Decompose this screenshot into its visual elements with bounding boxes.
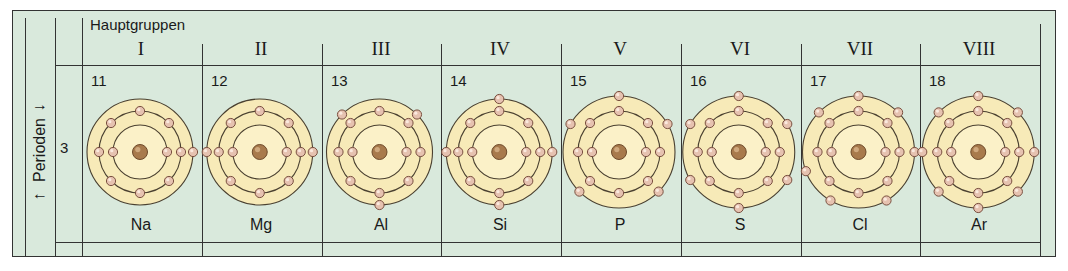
bohr-models-layer xyxy=(0,0,1068,271)
bohr-atom-model xyxy=(202,99,317,205)
bohr-atom-model xyxy=(801,91,919,208)
bohr-atom-model xyxy=(683,91,795,212)
nucleus xyxy=(612,145,627,160)
nucleus xyxy=(492,145,507,160)
bohr-atom-model xyxy=(563,91,675,208)
bohr-atom-model xyxy=(442,94,557,209)
nucleus xyxy=(731,145,746,160)
nucleus xyxy=(372,145,387,160)
nucleus xyxy=(971,145,986,160)
nucleus xyxy=(252,145,267,160)
nucleus xyxy=(851,145,866,160)
nucleus xyxy=(133,145,148,160)
periodic-table-period-3-diagram: Hauptgruppen ← Perioden → 3 I11NaII12MgI… xyxy=(0,0,1068,271)
bohr-atom-model xyxy=(918,91,1039,212)
bohr-atom-model xyxy=(87,99,198,205)
bohr-atom-model xyxy=(327,99,433,210)
